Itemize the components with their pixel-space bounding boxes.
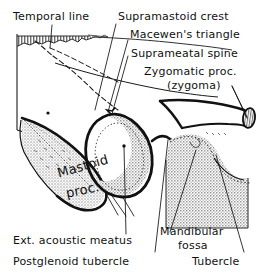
zygomatic-process <box>160 100 256 135</box>
label-temporal-line: Temporal line <box>13 11 89 23</box>
label-ext-acoustic-meatus: Ext. acoustic meatus <box>13 235 132 247</box>
label-macewens-triangle: Macewen's triangle <box>130 29 240 41</box>
figure-container: Temporal line Supramastoid crest Macewen… <box>0 0 265 278</box>
leader-suprameatal-spine <box>112 56 128 114</box>
dashed-temporal-line <box>35 41 118 110</box>
label-suprameatal-spine: Suprameatal spine <box>131 48 238 60</box>
label-zygoma: (zygoma) <box>167 80 221 92</box>
label-mandibular-fossa-line2: fossa <box>178 240 208 252</box>
label-postglenoid-tubercle: Postglenoid tubercle <box>13 256 129 268</box>
label-supramastoid-crest: Supramastoid crest <box>118 11 229 23</box>
leader-macewens-triangle <box>108 40 128 112</box>
label-tubercle: Tubercle <box>192 256 240 268</box>
mandibular-fossa <box>166 134 250 228</box>
label-mandibular-fossa-line1: Mandibular <box>160 226 224 238</box>
label-zygomatic-process: Zygomatic proc. <box>144 66 237 78</box>
